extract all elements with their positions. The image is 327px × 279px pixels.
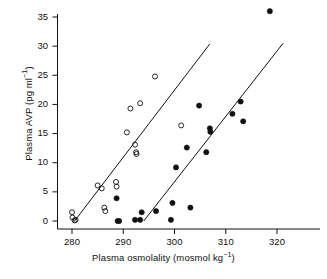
y-tick-marks: [53, 17, 58, 221]
data-point-open: [102, 205, 107, 210]
data-point-filled: [230, 111, 235, 116]
x-axis-label-text: Plasma osmolality (mosmol kg: [92, 252, 223, 263]
data-point-open: [179, 123, 184, 128]
data-point-open: [70, 210, 75, 215]
open-circle-markers: [70, 74, 184, 223]
y-axis-label-tail: ): [23, 66, 34, 69]
x-axis-label-exponent: −1: [223, 250, 231, 259]
scatter-plot-figure: 05101520253035 280290300310320 Plasma AV…: [0, 0, 327, 279]
regression-line-filled-circles: [144, 43, 283, 221]
data-point-filled: [197, 103, 202, 108]
data-point-filled: [188, 205, 193, 210]
data-point-filled: [114, 196, 119, 201]
data-point-filled: [238, 99, 243, 104]
data-point-open: [128, 106, 133, 111]
x-tick-marks: [72, 229, 277, 234]
data-point-filled: [153, 208, 158, 213]
data-point-filled: [241, 119, 246, 124]
y-tick-label-35: 35: [22, 11, 48, 22]
x-axis-label: Plasma osmolality (mosmol kg−1): [0, 252, 327, 263]
data-point-filled: [168, 217, 173, 222]
data-point-filled: [184, 145, 189, 150]
y-tick-label-0: 0: [22, 215, 48, 226]
data-point-filled: [267, 9, 272, 14]
data-point-filled: [139, 210, 144, 215]
data-point-open: [114, 184, 119, 189]
x-tick-label-320: 320: [262, 236, 292, 247]
data-point-open: [124, 130, 129, 135]
x-tick-label-290: 290: [108, 236, 138, 247]
data-point-filled: [173, 165, 178, 170]
y-axis-label-exponent: −1: [20, 70, 29, 78]
filled-circle-markers: [114, 9, 272, 224]
data-point-filled: [117, 218, 122, 223]
data-point-open: [103, 209, 108, 214]
data-point-filled: [138, 217, 143, 222]
data-point-open: [138, 101, 143, 106]
data-point-filled: [208, 129, 213, 134]
y-axis-label: Plasma AVP (pg ml−1): [23, 34, 34, 194]
x-tick-label-310: 310: [211, 236, 241, 247]
regression-line-open-circles: [75, 44, 210, 221]
regression-lines: [75, 43, 284, 221]
data-point-filled: [204, 150, 209, 155]
data-point-open: [153, 74, 158, 79]
x-axis-label-tail: ): [232, 252, 235, 263]
data-point-open: [114, 179, 119, 184]
data-point-filled: [132, 217, 137, 222]
data-point-filled: [170, 200, 175, 205]
x-tick-label-280: 280: [57, 236, 87, 247]
x-tick-label-300: 300: [160, 236, 190, 247]
y-axis-label-text: Plasma AVP (pg ml: [23, 78, 34, 161]
